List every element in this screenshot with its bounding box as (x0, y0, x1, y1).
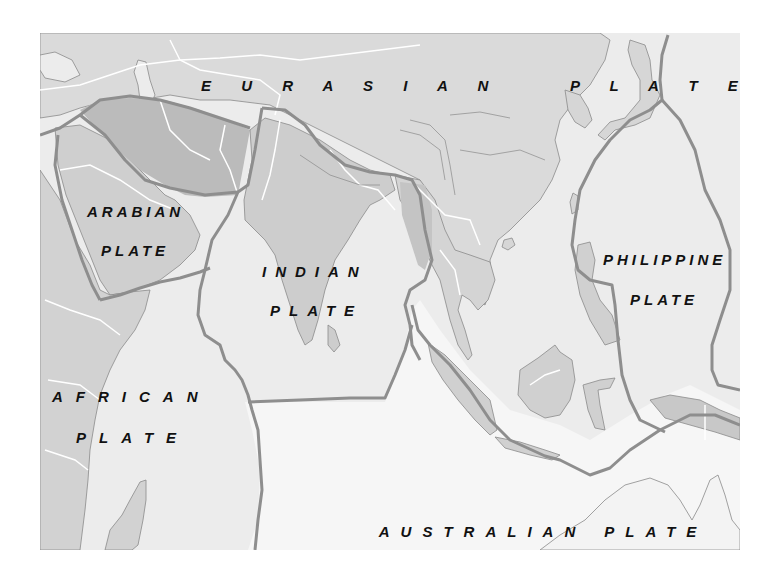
label-australian-word: AUSTRALIAN (379, 523, 587, 540)
label-philippine-plate-line1: PHILIPPINE (603, 252, 726, 267)
label-indian-plate-line1: INDIAN (262, 264, 368, 279)
label-african-plate-line1: AFRICAN (52, 389, 211, 404)
label-arabian-plate-line2: PLATE (101, 243, 169, 258)
label-australian-plate-word: PLATE (604, 523, 707, 540)
label-eurasian-plate: E U R A S I A N P L A T E (201, 78, 751, 93)
label-philippine-plate-line2: PLATE (630, 292, 698, 307)
label-arabian-plate-line1: ARABIAN (87, 204, 184, 219)
label-australian-plate: AUSTRALIANPLATE (349, 509, 707, 539)
label-african-plate-line2: PLATE (76, 430, 189, 445)
label-indian-plate-line2: PLATE (270, 303, 363, 318)
